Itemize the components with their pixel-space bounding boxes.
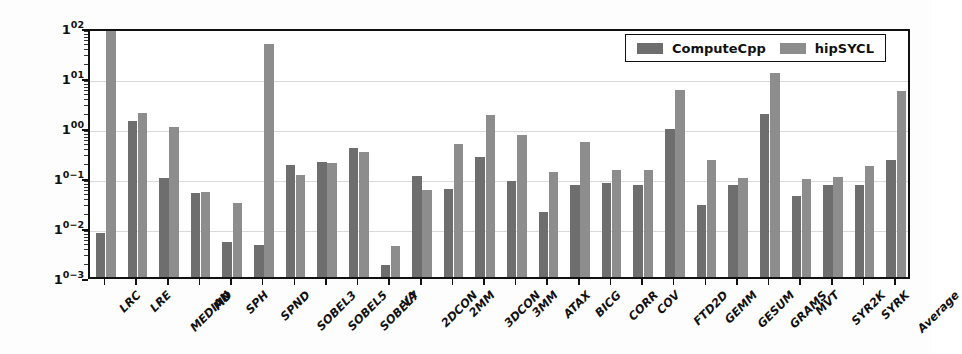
bar <box>422 190 431 277</box>
x-tick-label: CORR <box>625 288 660 323</box>
x-tick-mark <box>641 279 643 285</box>
bar <box>349 148 358 277</box>
x-tick-mark <box>452 279 454 285</box>
y-tick-label: 10−3 <box>26 272 84 287</box>
y-tick-mark-minor <box>84 31 88 32</box>
legend-swatch-computecpp <box>637 43 663 54</box>
bar <box>823 185 832 277</box>
y-tick-mark-minor <box>84 137 88 138</box>
bar <box>549 172 558 277</box>
gridline <box>90 231 908 232</box>
bar <box>233 203 242 277</box>
x-tick-mark <box>357 279 359 285</box>
y-tick-label: 101 <box>26 72 84 87</box>
y-tick-mark-minor <box>84 81 88 82</box>
x-tick-label: MEDIAN <box>187 288 233 334</box>
y-tick-mark-minor <box>84 134 88 135</box>
bar <box>539 212 548 277</box>
y-tick-mark-minor <box>84 84 88 85</box>
bar <box>296 175 305 277</box>
bar <box>612 170 621 277</box>
x-tick-label: 3MM <box>529 288 561 320</box>
x-tick-mark <box>610 279 612 285</box>
bar <box>159 178 168 277</box>
bar <box>833 177 842 277</box>
gridline <box>90 131 908 132</box>
x-tick-mark <box>799 279 801 285</box>
x-tick-mark <box>325 279 327 285</box>
x-tick-mark <box>515 279 517 285</box>
y-tick-mark-minor <box>84 187 88 188</box>
y-tick-mark-minor <box>84 240 88 241</box>
legend-entry-hipsycl: hipSYCL <box>780 41 874 56</box>
bar <box>897 91 906 277</box>
bar <box>327 163 336 277</box>
y-tick-mark-minor <box>84 37 88 38</box>
y-tick-mark-minor <box>84 49 88 50</box>
x-tick-mark <box>199 279 201 285</box>
bar <box>855 185 864 277</box>
bar <box>191 193 200 277</box>
bar <box>580 142 589 277</box>
bar <box>264 44 273 277</box>
bar <box>128 121 137 277</box>
bar <box>802 179 811 277</box>
x-tick-label: SYRK <box>878 288 912 322</box>
bar <box>317 162 326 277</box>
bar <box>412 176 421 277</box>
x-tick-mark <box>167 279 169 285</box>
bar <box>286 165 295 277</box>
bar <box>675 90 684 277</box>
y-tick-mark-minor <box>84 244 88 245</box>
x-tick-label: MVT <box>813 288 843 318</box>
bar <box>707 160 716 277</box>
y-tick-mark-minor <box>84 164 88 165</box>
x-tick-label: SPND <box>277 288 312 323</box>
bar <box>644 170 653 277</box>
y-tick-mark-minor <box>84 114 88 115</box>
y-tick-mark-minor <box>84 234 88 235</box>
y-tick-mark-minor <box>84 144 88 145</box>
gridline <box>90 181 908 182</box>
x-tick-mark <box>736 279 738 285</box>
x-tick-label: 2DCON <box>438 288 480 330</box>
x-tick-label: SYR2K <box>848 288 888 328</box>
bar <box>770 73 779 277</box>
y-axis-tick-labels: 10210110010−110−210−3 <box>26 0 84 354</box>
x-tick-mark <box>262 279 264 285</box>
y-tick-mark-minor <box>84 44 88 45</box>
x-tick-mark <box>388 279 390 285</box>
x-tick-mark <box>230 279 232 285</box>
y-tick-mark-minor <box>84 64 88 65</box>
bar <box>475 157 484 277</box>
y-tick-mark-minor <box>84 199 88 200</box>
x-tick-mark <box>863 279 865 285</box>
bar <box>138 113 147 277</box>
bar <box>760 114 769 277</box>
bar <box>697 205 706 277</box>
bar <box>381 265 390 277</box>
legend: ComputeCpp hipSYCL <box>625 34 886 62</box>
bar <box>665 129 674 277</box>
x-tick-label: LRE <box>147 288 174 315</box>
x-tick-label: COV <box>654 288 683 317</box>
x-tick-mark <box>546 279 548 285</box>
bar <box>633 185 642 277</box>
y-tick-mark-minor <box>84 181 88 182</box>
x-tick-mark <box>104 279 106 285</box>
bar <box>106 29 115 277</box>
x-tick-mark <box>483 279 485 285</box>
bar <box>254 245 263 277</box>
y-tick-mark-minor <box>84 140 88 141</box>
y-tick-mark-minor <box>84 105 88 106</box>
x-tick-mark <box>894 279 896 285</box>
bar <box>517 135 526 277</box>
legend-swatch-hipsycl <box>780 43 806 54</box>
x-tick-label: 2MM <box>466 288 498 320</box>
x-tick-label: SPH <box>243 288 272 317</box>
bar <box>169 127 178 277</box>
y-tick-mark-minor <box>84 237 88 238</box>
bar <box>201 192 210 277</box>
x-tick-label: VA <box>398 288 420 310</box>
